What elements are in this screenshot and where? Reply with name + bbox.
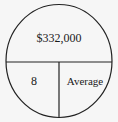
total-value: $332,000 (37, 31, 82, 46)
average-label: Average (67, 75, 103, 87)
count-value: 8 (31, 74, 37, 89)
magic-circle-diagram (0, 0, 118, 122)
